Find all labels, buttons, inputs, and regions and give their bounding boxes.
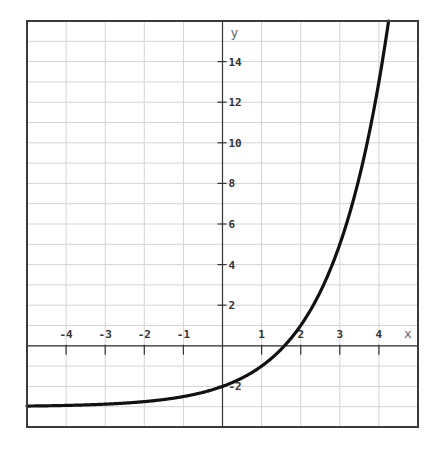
x-tick-label: -1 xyxy=(177,328,191,341)
y-tick-label: 14 xyxy=(229,56,243,69)
x-tick-label: -4 xyxy=(59,328,73,341)
y-tick-label: 6 xyxy=(229,218,236,231)
x-tick-label: 1 xyxy=(258,328,265,341)
function-plot: -4-3-2-11234-22468101214 x y xyxy=(0,0,442,454)
y-tick-label: 10 xyxy=(229,137,242,150)
x-axis-label: x xyxy=(404,326,412,341)
x-tick-label: -2 xyxy=(138,328,151,341)
x-tick-label: 3 xyxy=(336,328,343,341)
y-tick-label: 12 xyxy=(229,96,242,109)
y-tick-label: 2 xyxy=(229,299,236,312)
y-tick-label: 4 xyxy=(229,259,236,272)
y-tick-label: 8 xyxy=(229,177,236,190)
function-curve xyxy=(27,21,389,406)
x-tick-label: 4 xyxy=(376,328,383,341)
x-tick-label: -3 xyxy=(99,328,112,341)
y-axis-label: y xyxy=(231,25,239,40)
